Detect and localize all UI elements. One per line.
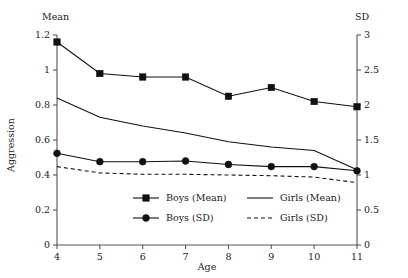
tick-label: 5 bbox=[97, 251, 103, 262]
tick-label: 3 bbox=[364, 29, 370, 40]
tick-label: 10 bbox=[308, 251, 320, 262]
y-axis-title: Aggression bbox=[5, 118, 16, 173]
data-point bbox=[268, 163, 275, 170]
tick-label: 1 bbox=[44, 64, 50, 75]
right-axis-caption: SD bbox=[355, 11, 370, 22]
tick-label: 0.6 bbox=[35, 134, 50, 145]
left-axis-caption: Mean bbox=[42, 11, 69, 22]
tick-label: 2.5 bbox=[364, 64, 379, 75]
legend-label: Girls (SD) bbox=[280, 212, 328, 223]
tick-label: 0.2 bbox=[35, 204, 50, 215]
tick-label: 1.5 bbox=[364, 134, 379, 145]
tick-label: 0.5 bbox=[364, 204, 379, 215]
legend-swatch-marker bbox=[143, 215, 150, 222]
tick-label: 0 bbox=[44, 239, 50, 250]
tick-label: 11 bbox=[351, 251, 363, 262]
tick-label: 4 bbox=[54, 251, 60, 262]
data-point bbox=[139, 158, 146, 165]
legend-label: Boys (SD) bbox=[166, 212, 214, 223]
tick-label: 0.4 bbox=[35, 169, 50, 180]
tick-label: 2 bbox=[364, 99, 370, 110]
tick-label: 9 bbox=[268, 251, 274, 262]
data-point bbox=[268, 84, 274, 90]
data-point bbox=[225, 93, 231, 99]
tick-label: 6 bbox=[140, 251, 146, 262]
aggression-by-age-chart: Mean SD Aggression Age 00.20.40.60.811.2… bbox=[0, 0, 408, 278]
left-axis-ticks: 00.20.40.60.811.2 bbox=[35, 29, 57, 250]
data-point bbox=[182, 158, 189, 165]
legend-item: Boys (SD) bbox=[133, 212, 214, 223]
legend-label: Girls (Mean) bbox=[280, 192, 341, 203]
data-point bbox=[225, 161, 232, 168]
legend-item: Girls (SD) bbox=[247, 212, 328, 223]
chart-legend: Boys (Mean)Girls (Mean)Boys (SD)Girls (S… bbox=[133, 192, 341, 223]
legend-item: Boys (Mean) bbox=[133, 192, 227, 203]
tick-label: 1.2 bbox=[35, 29, 50, 40]
data-point bbox=[96, 158, 103, 165]
series-layer bbox=[54, 39, 361, 183]
data-point bbox=[182, 74, 188, 80]
tick-label: 7 bbox=[183, 251, 189, 262]
tick-label: 0.8 bbox=[35, 99, 50, 110]
data-point bbox=[354, 167, 361, 174]
right-axis-ticks: 00.511.522.53 bbox=[357, 29, 379, 250]
legend-label: Boys (Mean) bbox=[166, 192, 227, 203]
data-point bbox=[311, 163, 318, 170]
data-point bbox=[54, 39, 60, 45]
tick-label: 1 bbox=[364, 169, 370, 180]
data-point bbox=[97, 70, 103, 76]
tick-label: 8 bbox=[225, 251, 231, 262]
data-point bbox=[140, 74, 146, 80]
data-point bbox=[354, 104, 360, 110]
data-point bbox=[311, 98, 317, 104]
tick-label: 0 bbox=[364, 239, 370, 250]
series-boys-mean bbox=[54, 39, 360, 110]
x-axis-title: Age bbox=[197, 261, 217, 272]
legend-swatch-marker bbox=[143, 195, 149, 201]
x-axis-ticks: 4567891011 bbox=[54, 245, 363, 262]
data-point bbox=[54, 150, 61, 157]
series-boys-sd bbox=[54, 150, 361, 174]
legend-item: Girls (Mean) bbox=[247, 192, 341, 203]
chart-svg: Mean SD Aggression Age 00.20.40.60.811.2… bbox=[0, 0, 408, 278]
